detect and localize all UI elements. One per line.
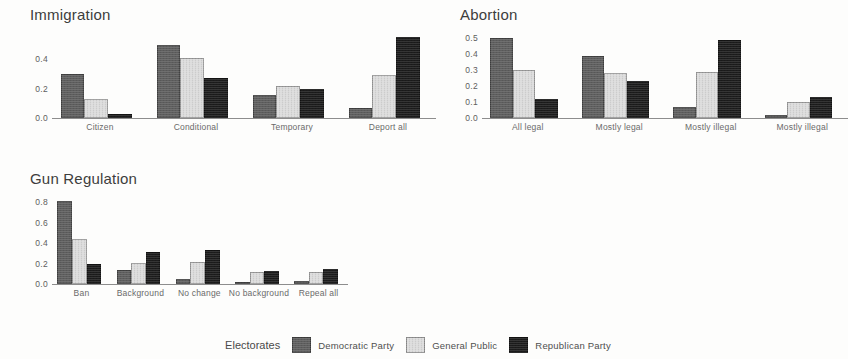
bar[interactable] bbox=[323, 269, 338, 284]
x-axis-label: Temporary bbox=[244, 122, 340, 132]
bar-texture bbox=[294, 281, 309, 284]
bar[interactable] bbox=[117, 270, 132, 284]
bar[interactable] bbox=[535, 99, 558, 118]
chart-panel-immigration: Immigration 0.00.20.4 CitizenConditional… bbox=[18, 4, 436, 144]
x-axis-label: Deport all bbox=[340, 122, 436, 132]
bar[interactable] bbox=[157, 45, 181, 118]
plot-area: 0.00.20.4 bbox=[18, 30, 436, 118]
bar[interactable] bbox=[396, 37, 420, 118]
bar-group bbox=[765, 30, 833, 118]
y-axis-tick: 0.8 bbox=[35, 197, 48, 207]
bar-texture bbox=[535, 99, 558, 118]
legend-label: Republican Party bbox=[535, 340, 611, 351]
bar[interactable] bbox=[765, 115, 788, 118]
bar-group bbox=[349, 30, 420, 118]
bar-texture bbox=[349, 108, 373, 118]
x-axis-label: Mostly illegal bbox=[665, 122, 757, 132]
bar[interactable] bbox=[146, 252, 161, 284]
bar-texture bbox=[157, 45, 181, 118]
bar-texture bbox=[276, 86, 300, 118]
bar[interactable] bbox=[810, 97, 833, 118]
y-axis-tick: 0.1 bbox=[465, 97, 478, 107]
bar[interactable] bbox=[250, 272, 265, 284]
bar-group bbox=[117, 194, 161, 284]
bar-texture bbox=[264, 271, 279, 284]
bar[interactable] bbox=[294, 281, 309, 284]
x-axis-label: Ban bbox=[52, 288, 111, 298]
bar[interactable] bbox=[582, 56, 605, 118]
bar[interactable] bbox=[176, 279, 191, 284]
bar-texture bbox=[787, 102, 810, 118]
bar[interactable] bbox=[673, 107, 696, 118]
x-axis-label: Mostly illegal bbox=[757, 122, 848, 132]
bar[interactable] bbox=[205, 250, 220, 284]
bars-container bbox=[52, 194, 348, 284]
y-axis-tick: 0.0 bbox=[35, 113, 48, 123]
bar[interactable] bbox=[300, 89, 324, 118]
x-axis-label: No background bbox=[229, 288, 289, 298]
bar[interactable] bbox=[490, 38, 513, 118]
bar-texture bbox=[176, 279, 191, 284]
y-axis-tick: 0.5 bbox=[465, 33, 478, 43]
bar[interactable] bbox=[61, 74, 85, 118]
bar[interactable] bbox=[718, 40, 741, 118]
bar[interactable] bbox=[372, 75, 396, 118]
bar-texture bbox=[490, 38, 513, 118]
bar-texture bbox=[131, 263, 146, 284]
bar-texture bbox=[604, 73, 627, 118]
y-axis-tick: 0.3 bbox=[465, 65, 478, 75]
legend-label: General Public bbox=[432, 340, 497, 351]
swatch-texture bbox=[406, 337, 425, 353]
bar[interactable] bbox=[696, 72, 719, 118]
bar[interactable] bbox=[349, 108, 373, 118]
x-axis-baseline bbox=[482, 118, 848, 119]
legend-item[interactable]: Democratic Party bbox=[292, 337, 394, 353]
bar-texture bbox=[250, 272, 265, 284]
bar[interactable] bbox=[84, 99, 108, 118]
bar[interactable] bbox=[253, 95, 277, 118]
swatch-texture bbox=[292, 337, 311, 353]
bar[interactable] bbox=[604, 73, 627, 118]
bar[interactable] bbox=[108, 114, 132, 118]
bar[interactable] bbox=[309, 272, 324, 284]
bar-texture bbox=[57, 201, 72, 284]
bar-group bbox=[176, 194, 220, 284]
bar-texture bbox=[72, 239, 87, 284]
x-axis-labels: All legalMostly legalMostly illegalMostl… bbox=[482, 122, 848, 132]
chart-panel-abortion: Abortion 0.00.10.20.30.40.5 All legalMos… bbox=[448, 4, 848, 144]
legend-item[interactable]: General Public bbox=[406, 337, 497, 353]
bar-group bbox=[294, 194, 338, 284]
bar-texture bbox=[300, 89, 324, 118]
y-axis-tick: 0.6 bbox=[35, 218, 48, 228]
bar-texture bbox=[117, 270, 132, 284]
bar[interactable] bbox=[131, 263, 146, 284]
bar[interactable] bbox=[180, 58, 204, 118]
plot-area: 0.00.10.20.30.40.5 bbox=[448, 30, 848, 118]
legend-swatch bbox=[406, 337, 425, 353]
bar-group bbox=[490, 30, 558, 118]
x-axis-label: Conditional bbox=[148, 122, 244, 132]
y-axis: 0.00.10.20.30.40.5 bbox=[448, 30, 482, 118]
bar-texture bbox=[87, 264, 102, 284]
bar[interactable] bbox=[787, 102, 810, 118]
x-axis-labels: CitizenConditionalTemporaryDeport all bbox=[52, 122, 436, 132]
x-axis-baseline bbox=[52, 118, 436, 119]
bar[interactable] bbox=[72, 239, 87, 284]
bar[interactable] bbox=[204, 78, 228, 118]
bar[interactable] bbox=[627, 81, 650, 118]
bar-texture bbox=[396, 37, 420, 118]
y-axis-tick: 0.0 bbox=[465, 113, 478, 123]
bar[interactable] bbox=[87, 264, 102, 284]
bar[interactable] bbox=[264, 271, 279, 284]
bar[interactable] bbox=[276, 86, 300, 118]
bar-texture bbox=[696, 72, 719, 118]
bar[interactable] bbox=[57, 201, 72, 284]
bar[interactable] bbox=[190, 262, 205, 285]
bar[interactable] bbox=[513, 70, 536, 118]
bars-container bbox=[482, 30, 848, 118]
legend-item[interactable]: Republican Party bbox=[509, 337, 611, 353]
x-axis-label: No change bbox=[170, 288, 229, 298]
bar[interactable] bbox=[235, 282, 250, 284]
bar-group bbox=[57, 194, 101, 284]
bar-texture bbox=[180, 58, 204, 118]
